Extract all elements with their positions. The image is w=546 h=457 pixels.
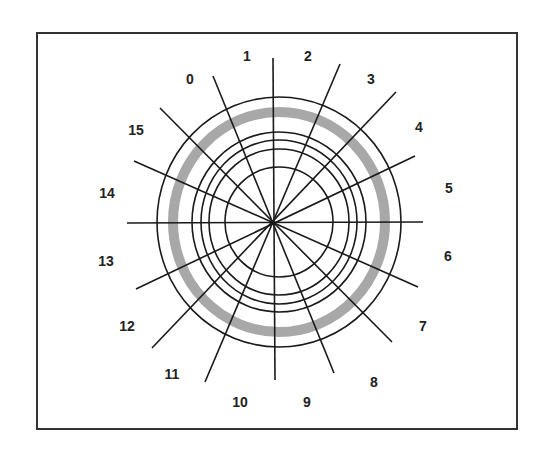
sector-label-11: 11: [165, 366, 180, 382]
sector-label-8: 8: [370, 374, 378, 390]
sector-label-15: 15: [128, 122, 144, 138]
sector-label-4: 4: [415, 119, 423, 135]
sector-label-2: 2: [304, 48, 312, 64]
sector-label-3: 3: [367, 71, 375, 87]
sector-label-1: 1: [243, 48, 251, 64]
sector-label-9: 9: [303, 394, 311, 410]
sector-label-12: 12: [119, 318, 135, 334]
sector-label-6: 6: [444, 248, 452, 264]
sector-label-7: 7: [419, 318, 427, 334]
sector-track-diagram: 0123456789101112131415: [0, 0, 546, 457]
sector-label-13: 13: [98, 253, 114, 269]
sector-label-14: 14: [99, 185, 115, 201]
sector-label-0: 0: [186, 71, 194, 87]
sector-label-10: 10: [232, 394, 248, 410]
sector-label-5: 5: [445, 180, 453, 196]
